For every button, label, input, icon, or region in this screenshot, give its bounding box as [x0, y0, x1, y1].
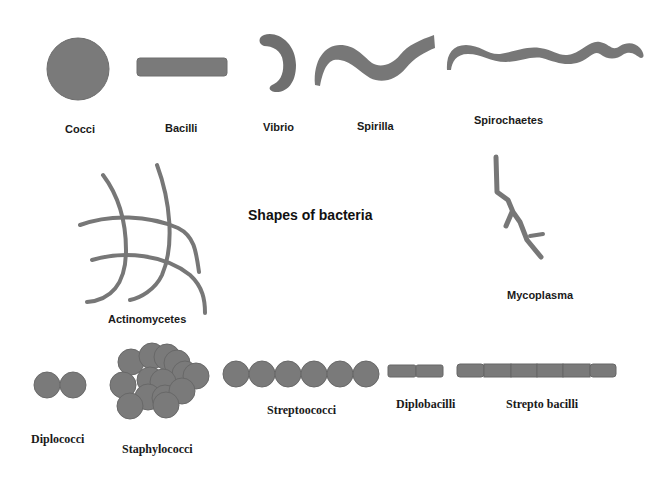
- diplococci-shape: [34, 372, 86, 398]
- diagram-title: Shapes of bacteria: [248, 207, 373, 223]
- label-actinomycetes: Actinomycetes: [108, 313, 186, 325]
- label-streptococci: Streptoococci: [267, 403, 336, 418]
- label-streptobacilli: Strepto bacilli: [506, 397, 578, 412]
- label-spirochaetes: Spirochaetes: [474, 114, 543, 126]
- actinomycetes-shape: [80, 165, 205, 313]
- streptococci-shape: [223, 361, 379, 387]
- mycoplasma-shape: [496, 157, 543, 257]
- streptobacilli-shape: [457, 364, 616, 377]
- bacilli-shape: [137, 58, 227, 76]
- staphylococci-shape: [110, 343, 209, 419]
- label-vibrio: Vibrio: [263, 121, 294, 133]
- label-bacilli: Bacilli: [165, 122, 197, 134]
- label-cocci: Cocci: [65, 123, 95, 135]
- spirilla-shape: [315, 35, 435, 86]
- label-staphylococci: Staphylococci: [122, 442, 193, 457]
- diplobacilli-shape: [388, 365, 443, 377]
- cocci-shape: [47, 38, 109, 100]
- spirochaetes-shape: [447, 42, 644, 70]
- label-diplobacilli: Diplobacilli: [396, 397, 455, 412]
- label-spirilla: Spirilla: [357, 120, 394, 132]
- bacteria-shapes-diagram: Shapes of bacteria Cocci Bacilli Vibrio …: [0, 0, 655, 480]
- vibrio-shape: [260, 34, 297, 92]
- label-diplococci: Diplococci: [31, 432, 84, 447]
- label-mycoplasma: Mycoplasma: [507, 289, 573, 301]
